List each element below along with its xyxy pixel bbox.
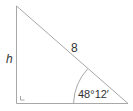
triangle-diagram: h 8 48°12′ (0, 0, 133, 111)
hypotenuse-label: 8 (71, 41, 78, 55)
right-angle-marker-icon (21, 96, 25, 100)
height-label: h (6, 52, 13, 66)
angle-label: 48°12′ (78, 88, 109, 100)
